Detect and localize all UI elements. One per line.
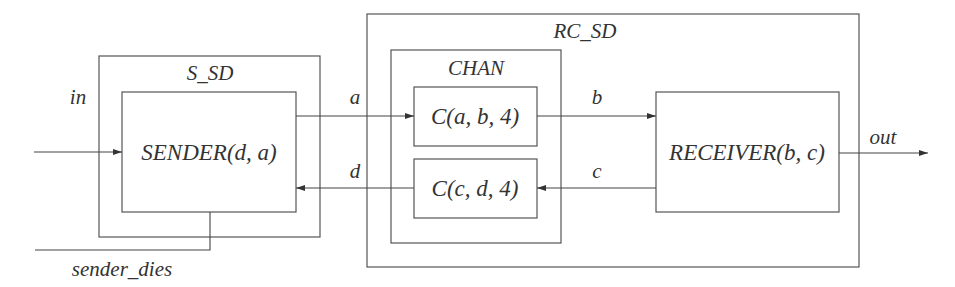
receiver-label: RECEIVER(b, c) [668, 140, 825, 165]
c-label: c [592, 159, 602, 183]
chan-label: CHAN [448, 56, 505, 80]
sender-label: SENDER(d, a) [141, 140, 276, 165]
channel-ab-label: C(a, b, 4) [431, 104, 519, 129]
out-label: out [870, 125, 898, 149]
process-diagram: S_SD SENDER(d, a) in sender_dies RC_SD C… [0, 0, 955, 287]
sender-dies-label: sender_dies [72, 257, 172, 281]
s-sd-label: S_SD [187, 61, 234, 85]
rc-sd-label: RC_SD [553, 19, 617, 43]
d-label: d [350, 159, 361, 183]
channel-cd-label: C(c, d, 4) [432, 176, 519, 201]
b-label: b [592, 85, 603, 109]
a-label: a [350, 85, 361, 109]
in-label: in [70, 85, 86, 109]
sender-dies-line [35, 212, 210, 250]
